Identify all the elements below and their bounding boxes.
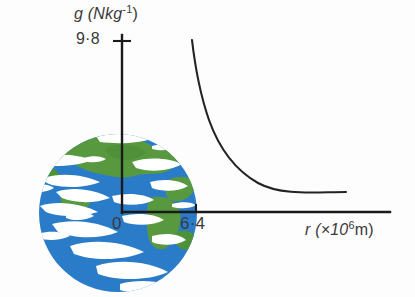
y-axis-exponent: -1 xyxy=(122,3,132,15)
origin-label: 0 xyxy=(112,214,122,234)
x-axis-tick-label: 6·4 xyxy=(180,214,205,234)
y-axis-close-paren: ) xyxy=(132,5,138,22)
x-axis-label: r (×106m) xyxy=(305,219,374,239)
figure-canvas xyxy=(0,0,415,297)
x-axis-symbol: r (×10 xyxy=(305,221,348,238)
physics-figure: g (Nkg-1) 9·8 0 6·4 r (×106m) xyxy=(0,0,415,297)
x-axis-unit: m) xyxy=(355,221,374,238)
y-axis-symbol: g (Nkg xyxy=(74,5,122,22)
field-strength-curve xyxy=(192,40,346,193)
y-axis-tick-label: 9·8 xyxy=(76,30,100,48)
y-axis-label: g (Nkg-1) xyxy=(74,3,138,23)
